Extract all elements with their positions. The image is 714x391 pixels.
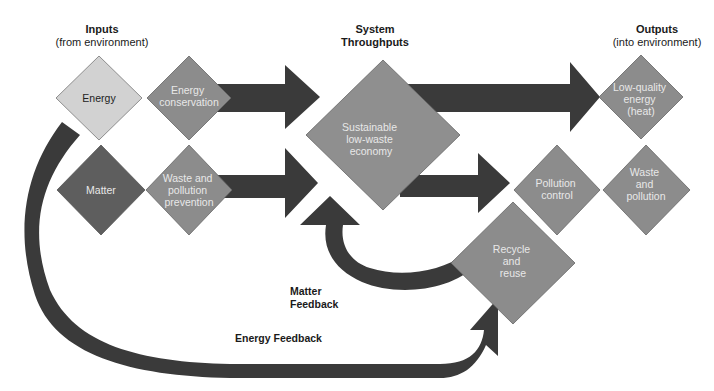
waste-prevention-label: Waste and pollution prevention <box>163 172 216 208</box>
energy-label: Energy <box>82 92 116 104</box>
inputs-title: Inputs <box>50 23 154 36</box>
matter-label: Matter <box>86 184 116 196</box>
energy-feedback-label: Energy Feedback <box>235 332 322 345</box>
inputs-subtitle: (from environment) <box>56 36 149 48</box>
matter-feedback-label: Matter Feedback <box>290 285 338 311</box>
economy-label: Sustainable low-waste economy <box>342 121 400 157</box>
outputs-subtitle: (into environment) <box>613 36 702 48</box>
outputs-title: Outputs <box>600 23 714 36</box>
matter-feedback-arrow <box>300 196 476 290</box>
sustainable-economy-diagram: Energy Energy conservation Matter Waste … <box>0 0 714 391</box>
inputs-header: Inputs (from environment) <box>50 23 154 49</box>
throughputs-title-line2: Throughputs <box>330 36 420 49</box>
throughputs-title-line1: System <box>330 23 420 36</box>
energy-feedback-text: Energy Feedback <box>235 332 322 344</box>
outputs-header: Outputs (into environment) <box>600 23 714 49</box>
diagram-canvas: Energy Energy conservation Matter Waste … <box>0 0 714 391</box>
matter-feedback-line2: Feedback <box>290 298 338 311</box>
pollution-control-label: Pollution control <box>535 177 578 201</box>
throughputs-header: System Throughputs <box>330 23 420 49</box>
matter-feedback-line1: Matter <box>290 285 338 298</box>
